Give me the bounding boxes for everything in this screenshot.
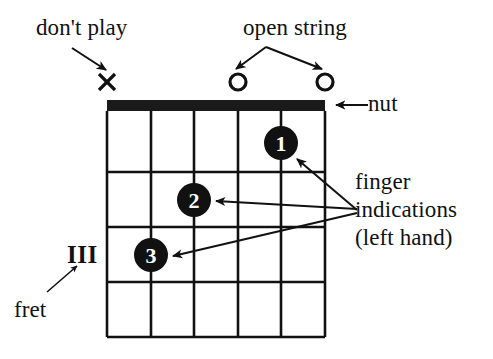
label-fret-number: III [67, 242, 98, 268]
label-fret: fret [14, 298, 46, 322]
label-finger-line-1: finger [355, 168, 457, 196]
marker-o-string-4 [230, 74, 246, 90]
arrow-finger-1 [297, 159, 357, 210]
finger-dots: 1 2 3 [134, 126, 298, 272]
marker-x-string-1 [99, 74, 115, 90]
label-open-string: open string [243, 16, 347, 40]
finger-dot-1-label: 1 [276, 131, 287, 156]
finger-dot-3-label: 3 [146, 243, 157, 268]
arrow-dont-play [72, 48, 106, 70]
label-nut: nut [368, 92, 398, 116]
string-head-markers [99, 74, 333, 90]
finger-dot-2-label: 2 [189, 188, 200, 213]
arrow-open-string-left [236, 47, 266, 69]
arrow-open-string-right [266, 47, 322, 69]
label-finger-line-2: indications [355, 196, 457, 224]
annotation-arrows [72, 47, 368, 256]
arrow-finger-3 [173, 213, 357, 256]
nut-bar [107, 100, 325, 111]
label-dont-play: don't play [36, 16, 127, 40]
marker-o-string-6 [317, 74, 333, 90]
arrow-fret [47, 266, 77, 292]
chord-diagram-figure: 1 2 3 don't play open string nut finger … [0, 0, 493, 359]
label-finger-indications: finger indications (left hand) [355, 168, 457, 252]
label-finger-line-3: (left hand) [355, 224, 457, 252]
